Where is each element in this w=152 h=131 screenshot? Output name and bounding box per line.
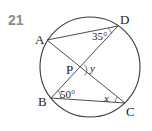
segment-AC (47, 40, 125, 103)
angle-label-50: 50° (60, 88, 75, 100)
point-label-D: D (120, 12, 129, 27)
angle-label-y: y (89, 62, 95, 74)
point-label-P: P (66, 62, 73, 77)
cyclic-quadrilateral-diagram: 21 A D B C P 35° 50° x y (0, 0, 152, 131)
point-label-B: B (38, 94, 47, 109)
angle-arc-D (108, 28, 112, 34)
point-label-C: C (126, 104, 135, 119)
angle-arc-C (115, 97, 118, 102)
angle-label-35: 35° (92, 30, 107, 42)
problem-number: 21 (8, 12, 24, 28)
angle-label-x: x (103, 92, 109, 104)
point-label-A: A (35, 32, 45, 47)
